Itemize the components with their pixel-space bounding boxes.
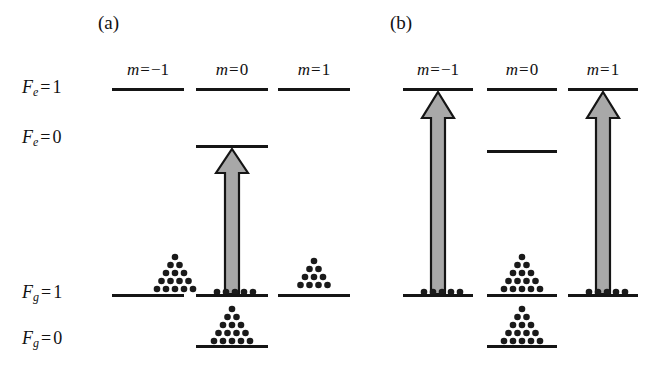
panel-a-caption: (a) [98, 12, 119, 34]
level-line-b-Fg1-m-minus1 [403, 294, 473, 297]
label-m-symbol: m [216, 60, 228, 79]
label-F-symbol: F [22, 127, 33, 147]
sublevel-label-m-minus1: m=−1 [112, 60, 184, 80]
label-equals: = [38, 77, 52, 97]
label-F-value: 1 [53, 282, 62, 302]
level-line-Fg1-m-plus1 [278, 294, 350, 297]
level-line-Fe1-m-zero [196, 88, 268, 91]
atom-population-b-Fg1-m-zero [495, 253, 549, 297]
label-equals: = [228, 60, 240, 79]
sublevel-label-b-m-zero: m=0 [487, 60, 557, 80]
atom-population-a-Fg1-m-plus1 [287, 257, 341, 297]
level-line-b-Fg1-m-zero [487, 294, 557, 297]
label-equals: = [39, 328, 53, 348]
label-m-symbol: m [127, 60, 139, 79]
label-m-symbol: m [298, 60, 310, 79]
label-equals: = [39, 282, 53, 302]
excitation-arrow-a-m0 [214, 147, 250, 295]
label-m-value: 0 [530, 60, 539, 79]
level-line-b-Fe1-m-minus1 [403, 88, 473, 91]
level-line-Fg0-m-zero [196, 345, 268, 348]
level-line-b-Fg1-m-plus1 [568, 294, 638, 297]
level-line-b-Fe1-m-plus1 [568, 88, 638, 91]
level-line-b-Fg0-m-zero [487, 345, 557, 348]
panel-b-caption: (b) [390, 12, 412, 34]
level-label-Fe0: Fe=0 [22, 127, 61, 150]
sublevel-label-m-plus1: m=1 [278, 60, 350, 80]
label-equals: = [310, 60, 322, 79]
label-m-symbol: m [417, 60, 429, 79]
label-F-symbol: F [22, 77, 33, 97]
level-line-Fe1-m-minus1 [112, 88, 184, 91]
sublevel-label-b-m-minus1: m=−1 [403, 60, 473, 80]
level-label-Fe1: Fe=1 [22, 77, 61, 100]
level-line-b-Fe0-m-zero [487, 150, 557, 153]
label-m-value: −1 [441, 60, 459, 79]
excitation-arrow-b-m-minus1 [420, 90, 456, 295]
label-F-value: 1 [52, 77, 61, 97]
label-m-value: 0 [240, 60, 249, 79]
level-line-b-Fe1-m-zero [487, 88, 557, 91]
label-equals: = [38, 127, 52, 147]
label-equals: = [429, 60, 441, 79]
label-equals: = [599, 60, 611, 79]
sublevel-label-m-zero: m=0 [196, 60, 268, 80]
label-F-symbol: F [22, 328, 33, 348]
label-F-value: 0 [53, 328, 62, 348]
label-m-value: 1 [322, 60, 331, 79]
atom-population-a-Fg1-m-minus1 [148, 253, 202, 297]
level-line-Fg1-m-minus1 [112, 294, 184, 297]
label-F-symbol: F [22, 282, 33, 302]
label-m-value: −1 [151, 60, 169, 79]
label-m-value: 1 [611, 60, 620, 79]
level-line-Fg1-m-zero [196, 294, 268, 297]
label-m-symbol: m [506, 60, 518, 79]
excitation-arrow-b-m-plus1 [585, 90, 621, 295]
level-line-Fe1-m-plus1 [278, 88, 350, 91]
label-m-symbol: m [587, 60, 599, 79]
atom-population-a-Fg0-m-zero [205, 305, 259, 349]
energy-level-figure: (a) Fe=1 Fe=0 Fg=1 Fg=0 m=−1 m=0 m=1 [0, 0, 666, 376]
label-equals: = [518, 60, 530, 79]
atom-population-b-Fg0-m-zero [495, 305, 549, 349]
label-F-value: 0 [52, 127, 61, 147]
label-equals: = [139, 60, 151, 79]
level-label-Fg1: Fg=1 [22, 282, 62, 305]
sublevel-label-b-m-plus1: m=1 [568, 60, 638, 80]
level-label-Fg0: Fg=0 [22, 328, 62, 351]
level-line-Fe0-m-zero [196, 145, 268, 148]
